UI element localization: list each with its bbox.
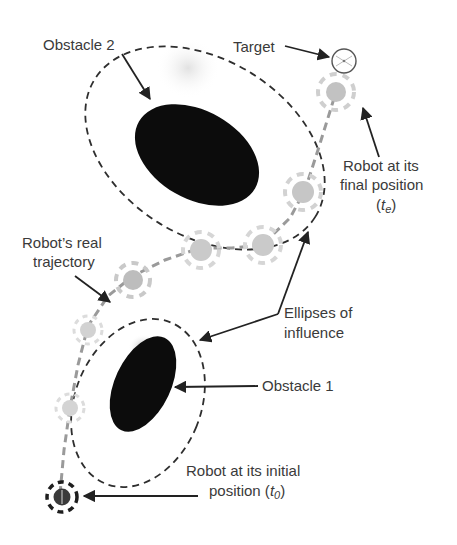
arrow-obstacle-2 bbox=[122, 54, 150, 99]
label-robot-final-line2: final position bbox=[340, 176, 423, 193]
label-robot-final-line1: Robot at its bbox=[343, 157, 419, 174]
diagram-canvas: Obstacle 2 Target Robot at its final pos… bbox=[0, 0, 457, 545]
label-ellipses-line1: Ellipses of bbox=[284, 304, 353, 321]
label-obstacle-2: Obstacle 2 bbox=[43, 36, 115, 53]
robot-final bbox=[318, 74, 354, 110]
arrow-ellipses-to-ellipse-2 bbox=[278, 232, 308, 314]
obstacle-2 bbox=[117, 83, 277, 226]
robot-ghost-4 bbox=[183, 232, 219, 268]
robot-ghost-1 bbox=[56, 394, 84, 422]
arrow-trajectory bbox=[75, 276, 110, 302]
label-trajectory-line1: Robot’s real bbox=[22, 234, 102, 251]
label-robot-initial-line1: Robot at its initial bbox=[186, 462, 300, 479]
label-obstacle-1: Obstacle 1 bbox=[262, 377, 334, 394]
arrow-robot-final bbox=[363, 108, 379, 157]
obstacle-1 bbox=[96, 326, 190, 442]
arrow-obstacle-1 bbox=[175, 386, 258, 387]
target-icon bbox=[332, 49, 356, 73]
label-robot-final-line3: (te) bbox=[376, 196, 396, 215]
label-robot-initial-line2: position (t0) bbox=[209, 482, 285, 501]
label-target: Target bbox=[233, 38, 276, 55]
robot-ghost-3 bbox=[116, 263, 150, 297]
label-trajectory-line2: trajectory bbox=[33, 253, 95, 270]
label-ellipses-line2: influence bbox=[284, 324, 344, 341]
arrow-target bbox=[285, 46, 329, 57]
robot-ghost-2 bbox=[74, 316, 102, 344]
robot-ghost-6 bbox=[285, 174, 321, 210]
arrow-ellipses-to-ellipse-1 bbox=[200, 314, 278, 340]
